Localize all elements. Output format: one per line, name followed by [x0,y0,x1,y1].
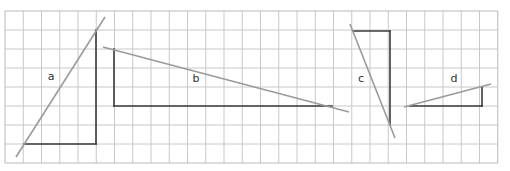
figure-label-a: a [48,70,55,83]
figure-b: b [103,47,349,112]
figure-label-c: c [358,72,364,85]
figure-d: d [404,72,491,107]
slope-line-b [103,47,349,112]
slope-triangles-diagram: a b c d [0,0,510,171]
figure-label-d: d [451,72,458,85]
right-angle-legs-b [114,49,332,106]
figure-label-b: b [193,72,200,85]
